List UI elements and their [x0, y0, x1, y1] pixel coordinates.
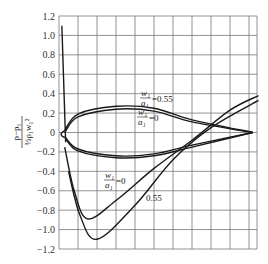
- y-tick-label: −1.0: [37, 224, 55, 235]
- curve-loop-lower-w1-a1-0-55: [65, 133, 253, 159]
- y-tick-label: 0.2: [43, 108, 56, 119]
- y-tick-label: 0: [50, 127, 55, 138]
- svg-text:w₁: w₁: [138, 107, 147, 117]
- annotation-w1-a1-0-lower: w₁a₁=0: [104, 170, 126, 190]
- chart-container: 1.21.00.80.60.40.20−0.2−0.4−0.6−0.8−1.0−…: [0, 0, 268, 264]
- curve-loop-lower-w1-a1-0: [65, 133, 253, 157]
- y-tick-label: −0.4: [37, 166, 55, 177]
- pressure-coefficient-chart: 1.21.00.80.60.40.20−0.2−0.4−0.6−0.8−1.0−…: [0, 0, 268, 264]
- y-axis-label: p−p₁½ρ₁w₁²: [11, 116, 33, 148]
- y-tick-label: −0.6: [37, 185, 55, 196]
- curve-loop-upper-w1-a1-0: [65, 109, 253, 133]
- y-tick-label: 1.0: [43, 30, 56, 41]
- y-tick-label: −1.2: [37, 244, 55, 255]
- y-tick-label: −0.8: [37, 205, 55, 216]
- svg-text:a₁: a₁: [105, 180, 113, 190]
- svg-text:=0: =0: [149, 113, 159, 123]
- svg-text:a₁: a₁: [138, 117, 146, 127]
- svg-text:w₁: w₁: [141, 88, 150, 98]
- svg-text:p−p₁: p−p₁: [11, 123, 21, 140]
- y-tick-label: 1.2: [43, 11, 56, 22]
- grid: [59, 16, 257, 249]
- y-tick-label: −0.2: [37, 146, 55, 157]
- svg-text:w₁: w₁: [105, 170, 114, 180]
- annotation-w1-a1-0.55-upper: w₁a₁=0.55: [140, 88, 173, 108]
- svg-text:=0: =0: [116, 176, 126, 186]
- svg-text:=0.55: =0.55: [152, 94, 173, 104]
- y-tick-label: 0.8: [43, 49, 56, 60]
- y-tick-label: 0.4: [43, 88, 56, 99]
- svg-text:½ρ₁w₁²: ½ρ₁w₁²: [23, 118, 33, 145]
- annotation-0.55-lower: 0.55: [146, 193, 162, 203]
- curve-spike: [62, 26, 66, 142]
- y-tick-label: 0.6: [43, 69, 56, 80]
